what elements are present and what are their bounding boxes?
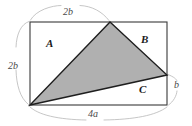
- geometry-figure: A B C 2b 2b 4a b: [0, 0, 192, 126]
- dimension-label-left: 2b: [8, 61, 18, 71]
- dimension-label-right: b: [174, 80, 179, 90]
- dimension-label-bottom: 4a: [88, 109, 98, 119]
- dimension-arc-left-upper: [16, 22, 29, 48]
- dimension-arc-left-lower: [16, 70, 29, 105]
- dimension-arc-bottom-right: [104, 107, 167, 120]
- dimension-arc-top: [31, 6, 62, 21]
- region-label-b: B: [141, 34, 148, 45]
- dimension-label-top: 2b: [63, 7, 73, 17]
- dimension-arc-right-lower: [169, 91, 178, 105]
- dimension-arc-top-right: [80, 6, 109, 21]
- region-label-c: C: [139, 84, 146, 95]
- region-label-a: A: [46, 38, 53, 49]
- dimension-arc-bottom-left: [30, 107, 87, 121]
